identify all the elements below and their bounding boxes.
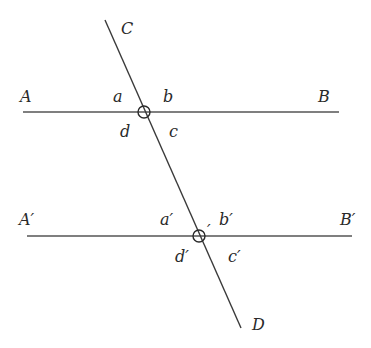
label-o-prime-mark: ′	[207, 221, 211, 240]
label-angle-d-prime: d′	[175, 247, 189, 266]
label-b-point: B	[317, 87, 330, 106]
label-angle-c: c	[169, 122, 178, 141]
label-d: D	[251, 315, 265, 334]
diagram-canvas: C A a b B d c A′ a′ b′ B′ ′ d′ c′ D	[0, 0, 371, 348]
label-angle-b: b	[163, 87, 173, 106]
label-c: C	[121, 19, 133, 38]
label-a-prime-point: A′	[17, 210, 35, 229]
label-b-prime-point: B′	[339, 210, 356, 229]
label-angle-c-prime: c′	[228, 247, 241, 266]
label-angle-d: d	[120, 122, 130, 141]
label-angle-a: a	[113, 87, 123, 106]
label-angle-b-prime: b′	[219, 210, 233, 229]
label-a-point: A	[18, 87, 32, 106]
transversal-cd	[105, 20, 241, 328]
label-angle-a-prime: a′	[160, 210, 174, 229]
